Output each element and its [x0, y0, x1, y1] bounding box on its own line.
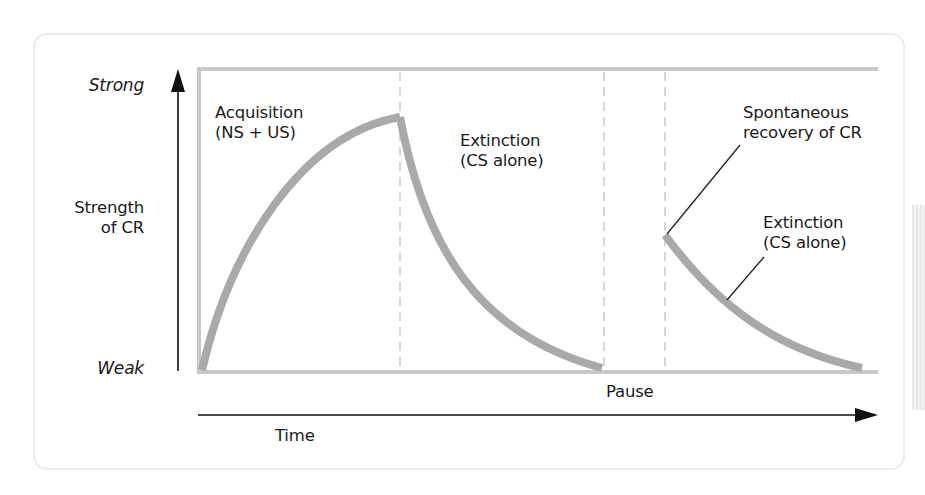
y-axis-title: Strength of CR — [50, 198, 144, 238]
recovery-label-line2: recovery of CR — [743, 123, 862, 143]
extinction2-leader — [727, 257, 764, 300]
extinction2-label: Extinction (CS alone) — [763, 213, 847, 253]
phase-dividers — [400, 72, 665, 370]
x-axis-title: Time — [275, 426, 315, 446]
recovery-label: Spontaneous recovery of CR — [743, 103, 862, 143]
recovery-label-line1: Spontaneous — [743, 103, 862, 123]
acquisition-curve — [202, 117, 400, 370]
acquisition-label-line1: Acquisition — [215, 103, 303, 123]
y-axis-weak-label: Weak — [80, 358, 144, 378]
leader-lines — [667, 145, 764, 300]
acquisition-label-line2: (NS + US) — [215, 123, 303, 143]
y-axis-title-line2: of CR — [50, 218, 144, 238]
y-axis-title-line1: Strength — [50, 198, 144, 218]
acquisition-label: Acquisition (NS + US) — [215, 103, 303, 143]
extinction1-label-line1: Extinction — [460, 131, 544, 151]
y-axis-strong-label: Strong — [80, 75, 144, 95]
extinction2-label-line2: (CS alone) — [763, 233, 847, 253]
extinction2-label-line1: Extinction — [763, 213, 847, 233]
extinction-curve-2 — [665, 235, 862, 368]
y-axis-arrowhead-icon — [171, 69, 185, 92]
x-axis-arrowhead-icon — [855, 408, 878, 422]
extinction1-label-line2: (CS alone) — [460, 151, 544, 171]
extinction1-label: Extinction (CS alone) — [460, 131, 544, 171]
pause-label: Pause — [606, 382, 654, 402]
recovery-leader — [667, 145, 740, 234]
